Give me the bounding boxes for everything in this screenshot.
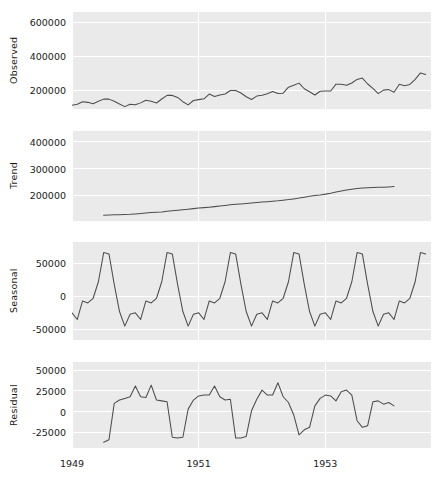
y-tick-label: -25000 <box>32 427 66 438</box>
plot-area-trend <box>72 131 431 221</box>
y-tick-label: 200000 <box>30 85 66 96</box>
y-tick-label: 300000 <box>30 163 66 174</box>
series-svg-seasonal <box>72 242 431 340</box>
y-tick-label: -50000 <box>32 324 66 335</box>
y-tick-label: 400000 <box>30 51 66 62</box>
y-tick-label: 0 <box>60 406 66 417</box>
y-tick-label: 200000 <box>30 190 66 201</box>
x-tick-label: 1949 <box>60 458 84 469</box>
data-line-residual <box>104 383 394 443</box>
data-line-trend <box>104 187 394 216</box>
y-axis-ticks-observed: 200000400000600000 <box>0 12 66 109</box>
plot-area-observed <box>72 12 431 109</box>
y-axis-ticks-trend: 200000300000400000 <box>0 131 66 221</box>
series-svg-residual <box>72 362 431 448</box>
y-tick-label: 400000 <box>30 136 66 147</box>
y-tick-label: 600000 <box>30 17 66 28</box>
y-axis-ticks-seasonal: -50000050000 <box>0 242 66 340</box>
y-tick-label: 50000 <box>36 365 66 376</box>
plot-area-residual <box>72 362 431 448</box>
series-svg-trend <box>72 131 431 221</box>
x-tick-label: 1953 <box>313 458 337 469</box>
x-tick-label: 1951 <box>187 458 211 469</box>
y-tick-label: 50000 <box>36 258 66 269</box>
y-axis-ticks-residual: -2500002500050000 <box>0 362 66 448</box>
plot-area-seasonal <box>72 242 431 340</box>
y-tick-label: 0 <box>60 291 66 302</box>
seasonal-decomposition-figure: Observed200000400000600000Trend200000300… <box>0 0 441 481</box>
y-tick-label: 25000 <box>36 385 66 396</box>
series-svg-observed <box>72 12 431 109</box>
